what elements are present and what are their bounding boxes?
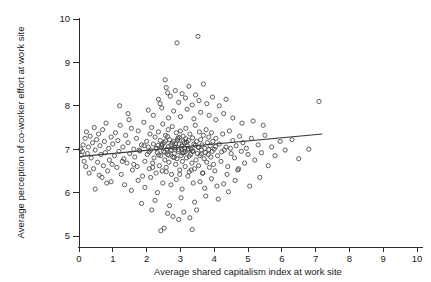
data-point bbox=[178, 129, 182, 133]
data-point bbox=[226, 164, 230, 168]
data-point bbox=[263, 133, 267, 137]
data-point bbox=[201, 82, 205, 86]
x-tick-label-6: 6 bbox=[279, 253, 284, 264]
data-point bbox=[270, 145, 274, 149]
data-point bbox=[207, 148, 211, 152]
data-point bbox=[253, 158, 257, 162]
data-point bbox=[243, 161, 247, 165]
data-point bbox=[170, 172, 174, 176]
data-point bbox=[236, 167, 240, 171]
data-point bbox=[174, 131, 178, 135]
data-point bbox=[155, 191, 159, 195]
data-point bbox=[186, 174, 190, 178]
data-point bbox=[183, 164, 187, 168]
data-point bbox=[109, 180, 113, 184]
data-point bbox=[222, 112, 226, 116]
data-point bbox=[153, 135, 157, 139]
data-point bbox=[256, 143, 260, 147]
data-point bbox=[261, 123, 265, 127]
data-point bbox=[156, 97, 160, 101]
data-point bbox=[205, 102, 209, 106]
data-point bbox=[136, 178, 140, 182]
data-point bbox=[219, 159, 223, 163]
data-point bbox=[172, 109, 176, 113]
data-point bbox=[251, 119, 255, 123]
data-point bbox=[119, 172, 123, 176]
data-point bbox=[207, 165, 211, 169]
data-point bbox=[181, 134, 185, 138]
data-point bbox=[94, 138, 98, 142]
data-point bbox=[217, 104, 221, 108]
data-point bbox=[182, 210, 186, 214]
data-point bbox=[197, 98, 201, 102]
data-point bbox=[156, 130, 160, 134]
data-point bbox=[258, 175, 262, 179]
y-tick-label-5: 5 bbox=[65, 230, 70, 241]
data-markers-group bbox=[79, 34, 321, 233]
y-tick-label-7: 7 bbox=[65, 144, 70, 155]
data-point bbox=[185, 107, 189, 111]
y-tick-label-9: 9 bbox=[65, 57, 70, 68]
data-point bbox=[216, 197, 220, 201]
data-point bbox=[248, 184, 252, 188]
data-point bbox=[239, 149, 243, 153]
data-point bbox=[183, 96, 187, 100]
data-point bbox=[167, 160, 171, 164]
data-point bbox=[188, 132, 192, 136]
data-point bbox=[168, 94, 172, 98]
data-point bbox=[174, 162, 178, 166]
data-point bbox=[209, 155, 213, 159]
data-point bbox=[191, 181, 195, 185]
axis-ticks-group: 5678910012345678910 bbox=[59, 13, 422, 264]
data-point bbox=[158, 102, 162, 106]
data-point bbox=[121, 145, 125, 149]
data-point bbox=[124, 133, 128, 137]
data-point bbox=[117, 104, 121, 108]
data-point bbox=[86, 145, 90, 149]
data-point bbox=[136, 129, 140, 133]
scatter-plot-figure: 5678910012345678910 Average shared capit… bbox=[0, 0, 431, 282]
data-point bbox=[106, 169, 110, 173]
data-point bbox=[93, 187, 97, 191]
data-point bbox=[205, 160, 209, 164]
data-point bbox=[204, 128, 208, 132]
y-tick-label-6: 6 bbox=[65, 187, 70, 198]
x-tick-label-10: 10 bbox=[412, 253, 423, 264]
data-point bbox=[140, 174, 144, 178]
data-point bbox=[193, 200, 197, 204]
data-point bbox=[297, 157, 301, 161]
data-point bbox=[193, 123, 197, 127]
data-point bbox=[150, 208, 154, 212]
data-point bbox=[214, 118, 218, 122]
data-point bbox=[229, 151, 233, 155]
x-tick-label-2: 2 bbox=[144, 253, 149, 264]
data-point bbox=[178, 172, 182, 176]
data-point bbox=[167, 204, 171, 208]
data-point bbox=[98, 144, 102, 148]
data-point bbox=[190, 227, 194, 231]
data-point bbox=[184, 126, 188, 130]
data-point bbox=[171, 214, 175, 218]
data-point bbox=[129, 188, 133, 192]
data-point bbox=[180, 187, 184, 191]
data-point bbox=[278, 139, 282, 143]
data-point bbox=[232, 156, 236, 160]
data-point bbox=[177, 217, 181, 221]
data-point bbox=[123, 183, 127, 187]
data-point bbox=[259, 151, 263, 155]
data-point bbox=[133, 155, 137, 159]
data-point bbox=[222, 182, 226, 186]
data-point bbox=[150, 125, 154, 129]
data-point bbox=[90, 141, 94, 145]
data-point bbox=[89, 156, 93, 160]
x-tick-label-1: 1 bbox=[110, 253, 115, 264]
data-point bbox=[167, 153, 171, 157]
data-point bbox=[203, 146, 207, 150]
data-point bbox=[113, 131, 117, 135]
data-point bbox=[166, 128, 170, 132]
data-point bbox=[221, 132, 225, 136]
data-point bbox=[91, 167, 95, 171]
x-tick-label-4: 4 bbox=[212, 253, 217, 264]
data-point bbox=[149, 175, 153, 179]
data-point bbox=[81, 143, 85, 147]
